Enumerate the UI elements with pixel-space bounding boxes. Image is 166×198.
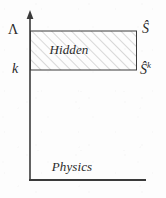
s-hat-k-label: Ŝk	[140, 61, 151, 77]
hidden-region-label: Hidden	[0, 43, 138, 56]
s-hat-label: Ŝ	[142, 22, 149, 36]
s-hat-k-superscript: k	[147, 60, 151, 70]
running-scale-axis-label: k	[12, 62, 18, 76]
cutoff-axis-label: Λ	[8, 23, 18, 37]
rg-scale-diagram: Λ k Ŝ Ŝk Hidden Physics	[0, 0, 166, 198]
scale-axis-arrowhead	[27, 10, 34, 19]
physics-region-label: Physics	[0, 160, 144, 173]
